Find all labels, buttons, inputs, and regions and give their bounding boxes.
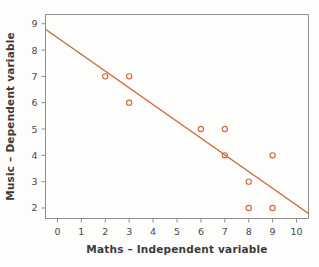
y-tick-label: 2: [31, 202, 37, 213]
y-axis: 23456789: [31, 18, 45, 213]
x-tick-label: 8: [246, 226, 252, 237]
x-tick-label: 2: [102, 226, 108, 237]
x-tick-label: 10: [290, 226, 302, 237]
x-tick-label: 5: [174, 226, 180, 237]
x-tick-label: 0: [54, 226, 60, 237]
x-tick-label: 6: [198, 226, 204, 237]
x-tick-label: 4: [150, 226, 156, 237]
chart-canvas: 01234567891023456789Maths – Independent …: [0, 0, 319, 267]
y-axis-title: Music – Dependent variable: [4, 32, 16, 201]
y-tick-label: 7: [31, 71, 37, 82]
plot-area-background: [46, 15, 309, 219]
x-tick-label: 9: [270, 226, 276, 237]
x-tick-label: 7: [222, 226, 228, 237]
x-tick-label: 1: [78, 226, 84, 237]
x-axis-title: Maths – Independent variable: [86, 243, 267, 255]
x-tick-label: 3: [126, 226, 132, 237]
y-tick-label: 9: [31, 18, 37, 29]
y-tick-label: 5: [31, 124, 37, 135]
x-axis: 012345678910: [54, 219, 302, 237]
scatter-plot-figure: 01234567891023456789Maths – Independent …: [0, 0, 319, 267]
y-tick-label: 8: [31, 45, 37, 56]
y-tick-label: 4: [31, 150, 37, 161]
y-tick-label: 6: [31, 97, 37, 108]
y-tick-label: 3: [31, 176, 37, 187]
